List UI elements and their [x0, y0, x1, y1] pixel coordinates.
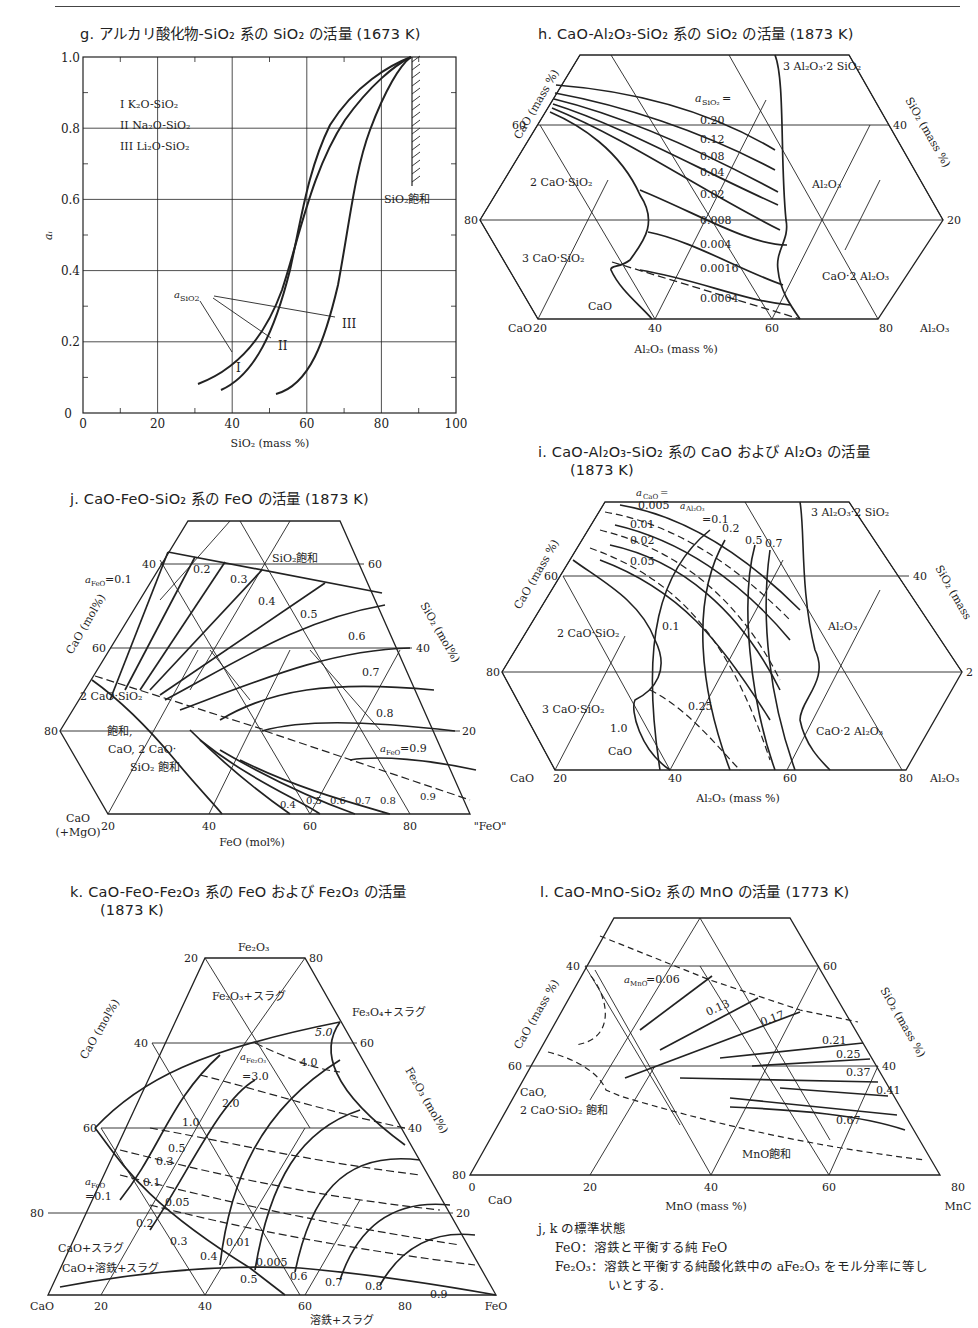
chart-l: 0 CaO 20 40 60 80 MnC MnO (mass %) 40 60… [0, 0, 978, 1328]
svg-text:MnO飽和: MnO飽和 [742, 1147, 791, 1161]
svg-text:40: 40 [566, 960, 580, 973]
svg-text:40: 40 [882, 1060, 896, 1073]
svg-text:60: 60 [508, 1060, 522, 1073]
svg-text:60: 60 [823, 960, 837, 973]
svg-text:40: 40 [704, 1181, 718, 1194]
footnote-heading: j, k の標準状態 [538, 1219, 626, 1238]
svg-text:0.13: 0.13 [704, 997, 732, 1019]
svg-text:20: 20 [583, 1181, 597, 1194]
svg-text:0.37: 0.37 [846, 1066, 871, 1079]
svg-text:CaO (mass %): CaO (mass %) [511, 977, 561, 1051]
svg-text:0.41: 0.41 [876, 1084, 901, 1097]
svg-text:SiO₂ (mass %): SiO₂ (mass %) [877, 985, 928, 1060]
svg-text:=0.06: =0.06 [646, 973, 680, 986]
svg-text:0.21: 0.21 [822, 1034, 847, 1047]
footnote-line3: いとする. [608, 1276, 664, 1295]
svg-text:80: 80 [951, 1181, 965, 1194]
svg-text:0.25: 0.25 [836, 1048, 861, 1061]
svg-text:0: 0 [469, 1181, 476, 1194]
footnote-line1: FeO：溶鉄と平衡する純 FeO [555, 1238, 727, 1257]
svg-text:MnC: MnC [945, 1200, 972, 1213]
svg-text:0.17: 0.17 [759, 1008, 786, 1029]
svg-text:2 CaO·SiO₂ 飽和: 2 CaO·SiO₂ 飽和 [520, 1103, 608, 1117]
svg-text:CaO: CaO [488, 1194, 512, 1207]
svg-text:MnO (mass %): MnO (mass %) [665, 1200, 747, 1213]
footnote-line2: Fe₂O₃：溶鉄と平衡する純酸化鉄中の aFe₂O₃ をモル分率に等し [555, 1257, 928, 1276]
svg-text:60: 60 [822, 1181, 836, 1194]
svg-text:80: 80 [452, 1169, 466, 1182]
svg-text:CaO,: CaO, [520, 1086, 547, 1099]
svg-text:0.67: 0.67 [836, 1114, 861, 1127]
